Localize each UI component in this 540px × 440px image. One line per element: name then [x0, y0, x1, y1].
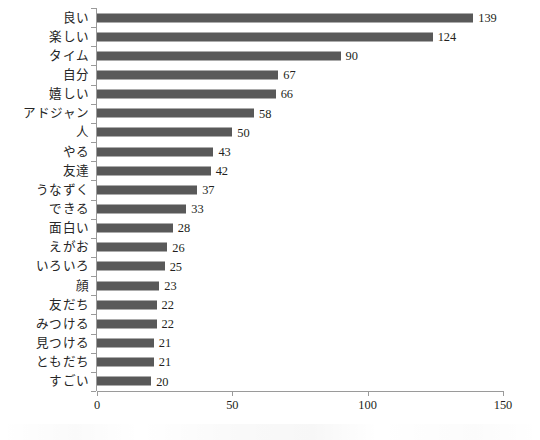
bar-value-label: 25 — [170, 260, 182, 272]
bar — [97, 262, 165, 271]
value-tick — [503, 391, 504, 396]
bar-row: 面白い28 — [97, 219, 503, 238]
bar-with-value: 139 — [97, 13, 497, 22]
category-tick — [91, 104, 96, 105]
bar-value-label: 28 — [178, 222, 190, 234]
bar-with-value: 42 — [97, 166, 228, 175]
category-label: 人 — [76, 126, 90, 139]
value-tick-label: 0 — [94, 399, 100, 411]
category-label: えがお — [49, 241, 90, 254]
bar — [97, 243, 167, 252]
category-tick — [91, 257, 96, 258]
bar-row: 見つける21 — [97, 333, 503, 352]
bar-with-value: 20 — [97, 377, 169, 386]
category-tick — [91, 8, 96, 9]
bar-value-label: 90 — [346, 50, 358, 62]
bar — [97, 204, 186, 213]
bar-row: みつける22 — [97, 314, 503, 333]
bar-row: やる43 — [97, 142, 503, 161]
value-tick-label: 150 — [494, 399, 513, 411]
bar-value-label: 58 — [259, 107, 271, 119]
category-label: 友だち — [49, 298, 90, 311]
bar — [97, 185, 197, 194]
bar-row: いろいろ25 — [97, 257, 503, 276]
category-label: 自分 — [63, 69, 90, 82]
category-tick — [91, 314, 96, 315]
bar — [97, 281, 159, 290]
bar-value-label: 50 — [237, 126, 249, 138]
category-label: 楽しい — [49, 30, 90, 43]
bar-with-value: 90 — [97, 51, 358, 60]
bar-with-value: 33 — [97, 204, 204, 213]
bar-value-label: 67 — [283, 69, 295, 81]
category-tick — [91, 142, 96, 143]
bar-value-label: 22 — [162, 298, 174, 310]
bar-row: えがお26 — [97, 238, 503, 257]
plot-area: 良い139楽しい124タイム90自分67嬉しい66アドジャン58人50やる43友… — [97, 8, 503, 391]
category-tick — [91, 219, 96, 220]
value-axis-line — [97, 391, 503, 392]
bar-value-label: 20 — [156, 375, 168, 387]
bar-value-label: 43 — [218, 145, 230, 157]
bar-row: ともだち21 — [97, 353, 503, 372]
bar-with-value: 23 — [97, 281, 177, 290]
category-tick — [91, 46, 96, 47]
bar — [97, 147, 213, 156]
bar-value-label: 124 — [438, 31, 457, 43]
bar-row: 友だち22 — [97, 295, 503, 314]
bar-row: すごい20 — [97, 372, 503, 391]
category-label: タイム — [49, 50, 90, 63]
bar — [97, 70, 278, 79]
bar — [97, 13, 473, 22]
bar-row: 嬉しい66 — [97, 85, 503, 104]
bar-value-label: 33 — [191, 203, 203, 215]
bar-with-value: 58 — [97, 109, 271, 118]
category-tick — [91, 161, 96, 162]
category-label: やる — [63, 145, 90, 158]
bar-value-label: 139 — [478, 11, 497, 23]
value-tick-label: 50 — [226, 399, 238, 411]
bar — [97, 319, 157, 328]
bar-with-value: 50 — [97, 128, 250, 137]
category-tick — [91, 123, 96, 124]
bar — [97, 32, 433, 41]
bar-with-value: 43 — [97, 147, 231, 156]
bar-with-value: 37 — [97, 185, 215, 194]
scan-artifact — [0, 424, 540, 440]
category-tick — [91, 200, 96, 201]
bar-value-label: 26 — [172, 241, 184, 253]
bar-with-value: 21 — [97, 358, 171, 367]
value-tick — [368, 391, 369, 396]
bar-value-label: 23 — [164, 279, 176, 291]
bar-row: 自分67 — [97, 65, 503, 84]
category-tick — [91, 180, 96, 181]
bar-with-value: 22 — [97, 300, 174, 309]
bar — [97, 109, 254, 118]
category-tick — [91, 27, 96, 28]
bar-with-value: 67 — [97, 70, 296, 79]
category-tick — [91, 276, 96, 277]
category-label: 友達 — [63, 164, 90, 177]
category-label: できる — [49, 203, 90, 216]
category-tick — [91, 391, 96, 392]
bar — [97, 338, 154, 347]
category-label: 嬉しい — [49, 88, 90, 101]
bar — [97, 224, 173, 233]
bar — [97, 358, 154, 367]
category-label: みつける — [36, 318, 90, 331]
category-tick — [91, 334, 96, 335]
bar-with-value: 28 — [97, 224, 190, 233]
bar — [97, 128, 232, 137]
bar-value-label: 21 — [159, 356, 171, 368]
category-label: うなずく — [36, 184, 90, 197]
category-label: 顔 — [76, 279, 90, 292]
bar-chart: 050100150 良い139楽しい124タイム90自分67嬉しい66アドジャン… — [0, 0, 540, 440]
bar-row: うなずく37 — [97, 180, 503, 199]
value-tick — [97, 391, 98, 396]
category-label: 良い — [63, 11, 90, 24]
bar-with-value: 21 — [97, 338, 171, 347]
bar-row: 友達42 — [97, 161, 503, 180]
bar-value-label: 42 — [216, 164, 228, 176]
bar-value-label: 37 — [202, 184, 214, 196]
category-tick — [91, 372, 96, 373]
